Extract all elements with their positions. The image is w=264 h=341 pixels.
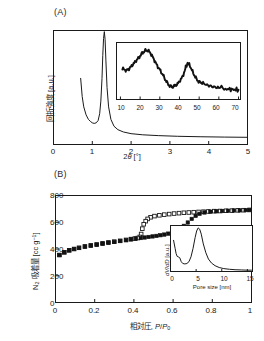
panel-b-xtick-08: 0.8 xyxy=(205,306,216,315)
panel-a-y-axis-label: 回折強度 [a.u.] xyxy=(44,75,55,122)
panel-a-inset-frame xyxy=(117,43,241,100)
panel-b-xtick-1: 1 xyxy=(248,306,252,315)
panel-a-xtick-2: 2 xyxy=(129,147,133,156)
panel-a-xtick-3: 3 xyxy=(168,147,172,156)
panel-b-xtick-04: 0.4 xyxy=(127,306,138,315)
panel-a-inset-xtick-30: 30 xyxy=(155,104,162,111)
panel-a-inset-xtick-10: 10 xyxy=(117,104,124,111)
panel-a-xtick-1: 1 xyxy=(90,147,94,156)
panel-b-xtick-0: 0 xyxy=(53,306,57,315)
panel-a-inset-xtick-70: 70 xyxy=(231,104,238,111)
panel-a-xtick-4: 4 xyxy=(207,147,211,156)
panel-b-tag: (B) xyxy=(54,169,67,179)
panel-b-ytick-800: 800 xyxy=(50,191,63,200)
panel-a-inset-xtick-50: 50 xyxy=(193,104,200,111)
panel-b-ytick-400: 400 xyxy=(50,245,63,254)
panel-b-isotherm: (B) N2 吸着量 [cc g−1] 相対圧, P/P0 0 200 400 … xyxy=(0,165,264,341)
panel-b-ytick-600: 600 xyxy=(50,218,63,227)
panel-b-inset-xtick-5: 5 xyxy=(196,275,200,282)
panel-a-inset-xtick-40: 40 xyxy=(174,104,181,111)
panel-b-xtick-02: 0.2 xyxy=(88,306,99,315)
panel-a-xtick-5: 5 xyxy=(246,147,250,156)
panel-b-inset-xtick-10: 10 xyxy=(220,275,227,282)
panel-b-ytick-200: 200 xyxy=(50,272,63,281)
panel-a-plot xyxy=(0,0,264,165)
panel-b-inset-y-axis-label: dV/dD [a.u.] xyxy=(164,244,170,276)
panel-a-xtick-0: 0 xyxy=(51,147,55,156)
panel-a-x-ticks xyxy=(54,141,248,145)
panel-b-x-axis-label: 相対圧, P/P0 xyxy=(130,320,170,331)
figure-container: (A) 回折強度 [a.u.] 2θ [°] 0 1 2 3 4 5 10 20… xyxy=(0,0,264,341)
panel-b-inset-frame xyxy=(171,226,253,272)
panel-b-y-axis-label: N2 吸着量 [cc g−1] xyxy=(29,232,40,290)
panel-b-x-ticks xyxy=(56,299,252,303)
panel-a-xrd: (A) 回折強度 [a.u.] 2θ [°] 0 1 2 3 4 5 10 20… xyxy=(0,0,264,165)
panel-b-xtick-06: 0.6 xyxy=(166,306,177,315)
panel-a-inset-xtick-20: 20 xyxy=(136,104,143,111)
panel-b-inset-xtick-0: 0 xyxy=(170,275,174,282)
panel-a-inset-xtick-60: 60 xyxy=(212,104,219,111)
panel-a-tag: (A) xyxy=(54,7,67,17)
panel-b-inset-x-axis-label: Pore size [nm] xyxy=(193,284,231,290)
panel-b-inset-xtick-15: 15 xyxy=(246,275,253,282)
